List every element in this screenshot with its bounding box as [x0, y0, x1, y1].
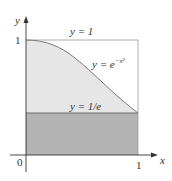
y-axis-label: y: [14, 14, 20, 26]
y-equals-1-label: y = 1: [69, 25, 93, 37]
y-equals-1-over-e-label: y = 1/e: [69, 100, 101, 112]
y-axis-arrow-icon: [24, 16, 29, 23]
origin-label: 0: [17, 156, 23, 168]
gaussian-label: y = e−x²: [91, 57, 126, 70]
diagram-canvas: y x 0 1 1 y = 1 y = e−x² y = 1/e: [0, 0, 172, 181]
y-tick-1-label: 1: [15, 34, 21, 46]
x-axis-arrow-icon: [151, 153, 158, 158]
lower-rectangle-region: [26, 113, 138, 155]
x-axis-label: x: [159, 154, 165, 166]
gaussian-label-base: y = e: [91, 58, 115, 70]
gaussian-label-exponent: −x²: [115, 57, 126, 65]
x-tick-1-label: 1: [136, 159, 142, 171]
